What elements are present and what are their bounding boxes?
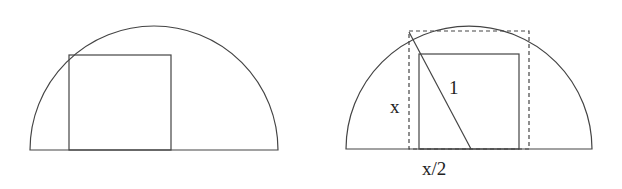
left-square	[69, 55, 171, 150]
height-label: x	[390, 96, 400, 117]
right-figure	[346, 26, 592, 149]
radius-label: 1	[449, 77, 459, 98]
left-figure	[30, 26, 278, 150]
half-width-label: x/2	[422, 158, 446, 179]
dashed-inscribed-rectangle	[409, 31, 529, 149]
radius-line	[409, 32, 471, 149]
left-semicircle	[30, 26, 278, 150]
right-semicircle	[346, 26, 592, 149]
right-square	[419, 54, 519, 149]
geometry-diagram: 1 x x/2	[0, 0, 622, 189]
